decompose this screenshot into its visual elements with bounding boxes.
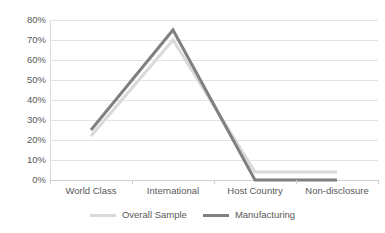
x-tick-label: International bbox=[132, 184, 214, 200]
legend-entry-manufacturing[interactable]: Manufacturing bbox=[203, 209, 295, 221]
x-tick-label: Host Country bbox=[214, 184, 296, 200]
x-axis-tick bbox=[132, 180, 133, 184]
x-axis-tick bbox=[296, 180, 297, 184]
legend-swatch-icon bbox=[203, 214, 229, 217]
chart-legend: Overall SampleManufacturing bbox=[0, 206, 385, 224]
legend-label: Overall Sample bbox=[122, 209, 187, 221]
line-chart: 0%10%20%30%40%50%60%70%80% World ClassIn… bbox=[0, 0, 385, 233]
x-tick-label: Non-disclosure bbox=[296, 184, 378, 200]
series-line-manufacturing bbox=[91, 30, 337, 180]
legend-label: Manufacturing bbox=[235, 209, 295, 221]
x-tick-label: World Class bbox=[50, 184, 132, 200]
x-axis-tick bbox=[50, 180, 51, 184]
legend-entry-overall-sample[interactable]: Overall Sample bbox=[90, 209, 187, 221]
legend-swatch-icon bbox=[90, 214, 116, 217]
x-axis-tick bbox=[378, 180, 379, 184]
x-axis-tick bbox=[214, 180, 215, 184]
x-axis-tick-labels: World ClassInternationalHost CountryNon-… bbox=[50, 184, 378, 200]
